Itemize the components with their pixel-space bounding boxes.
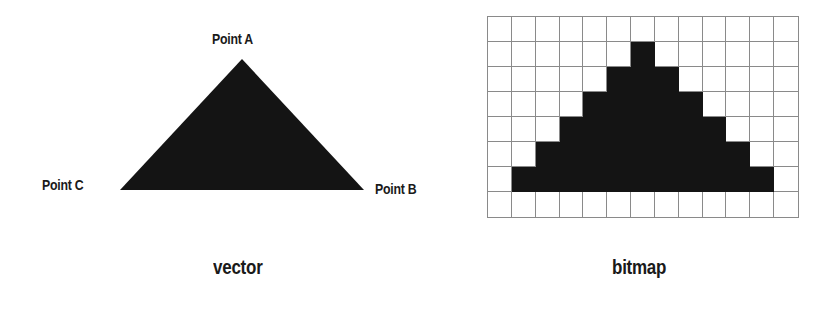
bitmap-pixel [560, 167, 584, 192]
bitmap-pixel [750, 42, 774, 67]
bitmap-pixel [512, 42, 536, 67]
bitmap-pixel [488, 117, 512, 142]
bitmap-pixel [774, 92, 798, 117]
bitmap-pixel [703, 167, 727, 192]
bitmap-pixel [488, 192, 512, 217]
bitmap-pixel [512, 192, 536, 217]
bitmap-pixel [679, 142, 703, 167]
bitmap-pixel [560, 42, 584, 67]
point-c-label: Point C [42, 176, 83, 193]
bitmap-pixel [726, 167, 750, 192]
bitmap-pixel [607, 117, 631, 142]
bitmap-pixel [655, 167, 679, 192]
bitmap-pixel [655, 17, 679, 42]
bitmap-pixel [774, 42, 798, 67]
bitmap-pixel [655, 117, 679, 142]
bitmap-pixel-grid [487, 16, 799, 218]
bitmap-pixel [536, 167, 560, 192]
bitmap-pixel [512, 92, 536, 117]
bitmap-pixel [536, 117, 560, 142]
bitmap-pixel [583, 17, 607, 42]
bitmap-pixel [560, 92, 584, 117]
bitmap-pixel [703, 42, 727, 67]
bitmap-pixel [631, 167, 655, 192]
bitmap-pixel [583, 42, 607, 67]
bitmap-pixel [679, 167, 703, 192]
bitmap-pixel [726, 142, 750, 167]
bitmap-pixel [488, 92, 512, 117]
bitmap-pixel [679, 192, 703, 217]
bitmap-pixel [774, 67, 798, 92]
bitmap-pixel [750, 92, 774, 117]
bitmap-pixel [631, 142, 655, 167]
bitmap-pixel [774, 142, 798, 167]
bitmap-pixel [726, 117, 750, 142]
bitmap-pixel [631, 192, 655, 217]
bitmap-pixel [512, 17, 536, 42]
bitmap-pixel [607, 192, 631, 217]
bitmap-pixel [655, 42, 679, 67]
bitmap-pixel [750, 167, 774, 192]
bitmap-pixel [560, 67, 584, 92]
bitmap-pixel [774, 17, 798, 42]
bitmap-pixel [536, 17, 560, 42]
bitmap-pixel [726, 92, 750, 117]
bitmap-pixel [607, 167, 631, 192]
bitmap-pixel [512, 67, 536, 92]
bitmap-caption: bitmap [612, 256, 666, 279]
bitmap-pixel [512, 117, 536, 142]
bitmap-pixel [607, 42, 631, 67]
bitmap-pixel [607, 67, 631, 92]
point-b-label: Point B [375, 180, 416, 197]
bitmap-pixel [631, 92, 655, 117]
bitmap-pixel [488, 17, 512, 42]
bitmap-pixel [679, 42, 703, 67]
bitmap-pixel [774, 192, 798, 217]
bitmap-pixel [583, 67, 607, 92]
bitmap-pixel [703, 92, 727, 117]
bitmap-pixel [703, 17, 727, 42]
bitmap-pixel [631, 67, 655, 92]
bitmap-pixel [750, 142, 774, 167]
point-a-label: Point A [212, 30, 253, 47]
bitmap-pixel [536, 142, 560, 167]
bitmap-pixel [488, 67, 512, 92]
bitmap-pixel [536, 192, 560, 217]
bitmap-pixel [560, 17, 584, 42]
bitmap-pixel [560, 192, 584, 217]
bitmap-pixel [774, 117, 798, 142]
bitmap-pixel [679, 67, 703, 92]
bitmap-pixel [512, 142, 536, 167]
bitmap-pixel [655, 92, 679, 117]
bitmap-pixel [607, 142, 631, 167]
bitmap-pixel [655, 142, 679, 167]
bitmap-pixel [703, 192, 727, 217]
bitmap-pixel [560, 117, 584, 142]
bitmap-pixel [536, 67, 560, 92]
bitmap-pixel [512, 167, 536, 192]
bitmap-pixel [488, 42, 512, 67]
bitmap-pixel [583, 192, 607, 217]
bitmap-pixel [560, 142, 584, 167]
bitmap-pixel [631, 42, 655, 67]
bitmap-pixel [750, 67, 774, 92]
bitmap-pixel [583, 142, 607, 167]
bitmap-pixel [536, 42, 560, 67]
bitmap-pixel [703, 117, 727, 142]
bitmap-pixel [726, 67, 750, 92]
bitmap-pixel [774, 167, 798, 192]
bitmap-pixel [679, 92, 703, 117]
bitmap-pixel [536, 92, 560, 117]
bitmap-pixel [750, 17, 774, 42]
bitmap-pixel [750, 192, 774, 217]
bitmap-pixel [631, 17, 655, 42]
bitmap-pixel [655, 192, 679, 217]
bitmap-pixel [726, 17, 750, 42]
bitmap-pixel [679, 17, 703, 42]
bitmap-pixel [583, 167, 607, 192]
bitmap-pixel [679, 117, 703, 142]
bitmap-pixel [631, 117, 655, 142]
bitmap-pixel [750, 117, 774, 142]
vector-triangle [120, 59, 364, 190]
bitmap-pixel [488, 142, 512, 167]
